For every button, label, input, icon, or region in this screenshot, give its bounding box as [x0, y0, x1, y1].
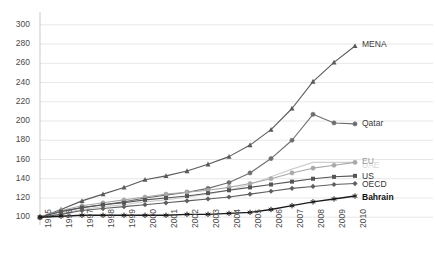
y-tick-label: 120 [4, 193, 30, 202]
y-tick-label: 180 [4, 135, 30, 144]
x-tick-label: 2009 [338, 209, 347, 228]
x-tick-label: 2006 [275, 209, 284, 228]
series-label-qatar: Qatar [362, 119, 383, 128]
series-mena [38, 43, 358, 219]
chart-container: 100120140160180200220240260280300 199519… [0, 0, 436, 258]
y-tick-label: 160 [4, 155, 30, 164]
series-label-bahrain: Bahrain [362, 193, 394, 202]
series-label-mena: MENA [362, 40, 387, 49]
x-tick-label: 1999 [128, 209, 137, 228]
y-tick-label: 300 [4, 20, 30, 29]
x-tick-label: 1997 [86, 209, 95, 228]
x-tick-label: 1995 [44, 209, 53, 228]
y-tick-label: 100 [4, 212, 30, 221]
x-tick-label: 2008 [317, 209, 326, 228]
x-tick-label: 2005 [254, 209, 263, 228]
y-tick-label: 280 [4, 39, 30, 48]
x-tick-label: 2003 [212, 209, 221, 228]
y-tick-label: 140 [4, 174, 30, 183]
x-tick-label: 2001 [170, 209, 179, 228]
x-tick-label: 2004 [233, 209, 242, 228]
x-tick-label: 1996 [65, 209, 74, 228]
series-label-oecd: OECD [362, 180, 387, 189]
x-tick-label: 2010 [359, 209, 368, 228]
series-qatar [38, 112, 357, 219]
y-tick-label: 240 [4, 78, 30, 87]
y-tick-label: 260 [4, 58, 30, 67]
y-tick-label: 200 [4, 116, 30, 125]
y-tick-label: 220 [4, 97, 30, 106]
x-tick-label: 2007 [296, 209, 305, 228]
x-tick-label: 2002 [191, 209, 200, 228]
series-label-eu: EU [362, 157, 374, 166]
x-tick-label: 2000 [149, 209, 158, 228]
x-tick-label: 1998 [107, 209, 116, 228]
